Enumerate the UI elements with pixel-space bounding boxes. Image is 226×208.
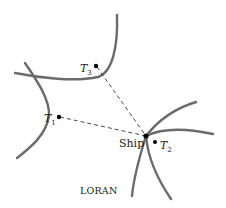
t3-dot <box>94 64 98 68</box>
caption: LORAN <box>80 185 117 196</box>
dash-t1-ship <box>60 117 146 136</box>
dash-t3-ship <box>97 67 146 136</box>
t2-label: T2 <box>160 139 172 154</box>
t2-dot <box>153 140 157 144</box>
t3-label: T3 <box>80 62 92 77</box>
hyperbola-right-middle <box>146 130 213 136</box>
loran-diagram: T3 T1 T2 Ship LORAN <box>0 0 226 208</box>
t1-label: T1 <box>44 112 56 127</box>
ship-label: Ship <box>119 137 144 150</box>
t1-dot <box>57 115 61 119</box>
